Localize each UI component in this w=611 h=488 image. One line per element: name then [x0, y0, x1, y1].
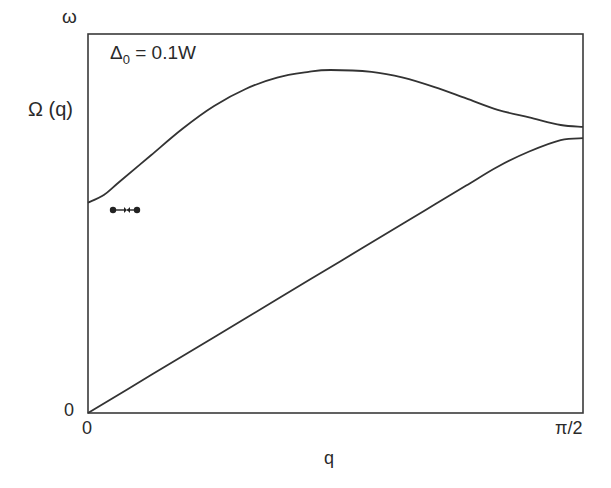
y-tick-0: 0 — [64, 400, 74, 421]
x-tick-pi-half: π/2 — [555, 418, 582, 439]
upper-branch-curve — [88, 70, 583, 203]
chart-plot — [0, 0, 611, 488]
x-tick-0: 0 — [82, 418, 92, 439]
lower-branch-curve — [88, 138, 583, 413]
y-axis-label-Omega-q: Ω (q) — [28, 98, 73, 121]
annotation-subscript: 0 — [123, 52, 130, 67]
annotation-value: = 0.1W — [130, 42, 196, 63]
gap-annotation: Δ0 = 0.1W — [110, 42, 196, 67]
annotation-symbol: Δ — [110, 42, 123, 63]
x-axis-label: q — [324, 448, 334, 469]
plot-frame — [88, 34, 583, 413]
y-axis-label-omega: ω — [62, 6, 77, 28]
converging-arrows-marker — [110, 207, 140, 213]
